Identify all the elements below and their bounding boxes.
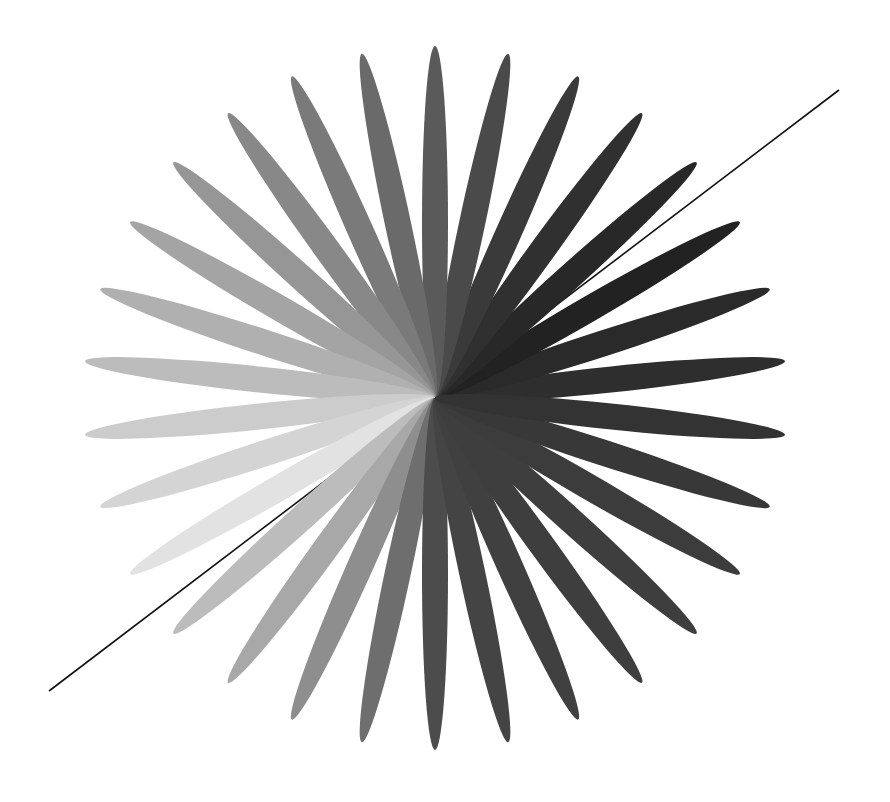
petal-burst-figure [0, 0, 890, 802]
